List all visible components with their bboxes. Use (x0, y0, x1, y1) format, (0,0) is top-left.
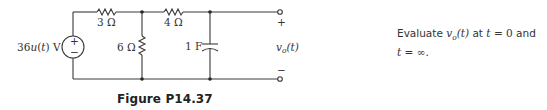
resistor-6ohm (139, 36, 145, 55)
label-1F: 1 F (185, 40, 202, 52)
figure-caption: Figure P14.37 (117, 92, 213, 106)
eq1: = 0 (491, 27, 513, 39)
output-minus-sign: − (277, 64, 286, 76)
output-plus-sign: + (277, 16, 286, 28)
label-3ohm: 3 Ω (97, 16, 116, 28)
text: Evaluate (397, 27, 446, 39)
label-vo: vo(t) (276, 41, 299, 55)
eq2: = ∞. (401, 46, 429, 58)
label-6ohm: 6 Ω (117, 41, 136, 53)
resistor-4ohm (164, 9, 183, 15)
label-4ohm: 4 Ω (164, 16, 183, 28)
terminal-top (278, 10, 283, 15)
problem-statement: Evaluate vo(t) at t = 0 andt = ∞. (397, 26, 542, 59)
source-minus-sign: − (70, 46, 79, 58)
text: at (469, 27, 486, 39)
source-label: 36u(t) V (17, 41, 61, 53)
resistor-3ohm (97, 9, 116, 15)
terminal-bottom (278, 77, 283, 82)
var-arg: (t) (457, 27, 469, 39)
text: and (513, 27, 536, 39)
